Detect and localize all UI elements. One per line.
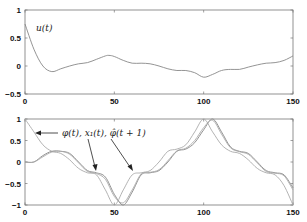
bottom-axes: 10.50−0.5−1 050100150 φ(t), x₁(t), φ̂(t … <box>5 115 300 217</box>
x-tick-label: 0 <box>23 97 28 106</box>
y-tick-label: 0.5 <box>10 34 22 43</box>
y-tick-label: 1 <box>17 6 22 15</box>
top-axes-frame <box>25 10 293 94</box>
arrow-right <box>111 139 130 167</box>
x-tick-label: 100 <box>197 97 211 106</box>
x-tick-label: 150 <box>286 208 300 217</box>
y-tick-label: 0 <box>17 62 22 71</box>
u-curve <box>25 24 293 77</box>
arrow-mid <box>88 139 95 167</box>
y-tick-label: 0 <box>17 158 22 167</box>
y-tick-label: 0.5 <box>10 137 22 146</box>
x-tick-label: 0 <box>23 208 28 217</box>
y-tick-label: −0.5 <box>5 90 21 99</box>
x-tick-label: 50 <box>110 97 119 106</box>
y-tick-label: −1 <box>12 201 22 210</box>
phi-annotation: φ(t), x₁(t), φ̂(t + 1) <box>62 128 146 138</box>
figure: 10.50−0.5 050100150 u(t) 10.50−0.5−1 050… <box>0 0 307 222</box>
arrow-mid-head-icon <box>93 164 98 171</box>
u-annotation: u(t) <box>36 23 53 33</box>
y-tick-label: 1 <box>17 115 22 124</box>
x-tick-label: 150 <box>286 97 300 106</box>
y-tick-label: −0.5 <box>5 180 21 189</box>
top-axes: 10.50−0.5 050100150 u(t) <box>5 6 300 106</box>
x-tick-label: 50 <box>110 208 119 217</box>
x-tick-label: 100 <box>197 208 211 217</box>
